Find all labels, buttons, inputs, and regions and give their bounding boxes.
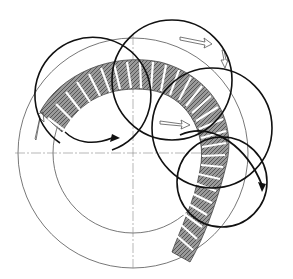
rotation-loops bbox=[35, 20, 272, 227]
helical-band bbox=[40, 60, 229, 262]
right-arrow-icon bbox=[160, 120, 190, 129]
diagram-canvas bbox=[0, 0, 293, 279]
helical-ring-diagram bbox=[0, 0, 293, 279]
right-arrow-icon bbox=[180, 37, 212, 48]
arrowhead-icon bbox=[258, 182, 266, 192]
arrowhead-icon bbox=[110, 134, 120, 142]
down-arrow-icon bbox=[221, 50, 228, 68]
